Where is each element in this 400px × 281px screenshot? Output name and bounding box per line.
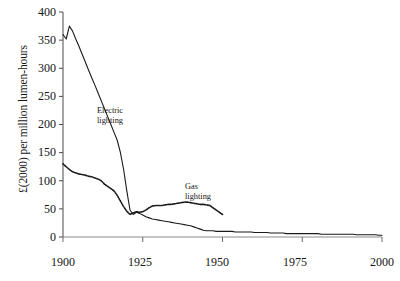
lighting-cost-chart: £(2000) per million lumen-hours 400 350 …: [0, 0, 400, 281]
y-tick-marks: [59, 12, 63, 237]
series-line-gas-lighting: [63, 164, 223, 215]
chart-plot-svg: [0, 0, 400, 281]
x-tick-marks: [63, 237, 382, 242]
series-line-electric-lighting: [63, 26, 382, 235]
